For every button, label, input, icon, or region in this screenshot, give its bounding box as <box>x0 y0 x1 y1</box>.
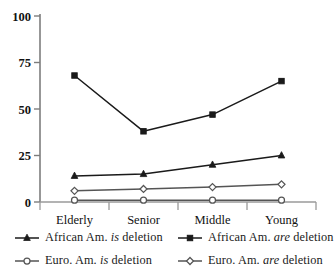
filled-triangle-icon <box>14 231 40 245</box>
data-point <box>209 184 216 191</box>
chart-legend: African Am. is deletion African Am. are … <box>0 226 330 277</box>
data-point <box>279 197 285 203</box>
series-0 <box>71 152 285 179</box>
series-line <box>75 184 282 191</box>
legend-label: Euro. Am. is deletion <box>45 253 152 268</box>
series-1 <box>72 73 284 134</box>
y-tick-label: 25 <box>19 149 32 163</box>
legend-label: African Am. is deletion <box>45 230 163 245</box>
data-point <box>279 78 284 83</box>
data-point <box>140 185 147 192</box>
legend-row-2: Euro. Am. is deletion Euro. Am. are dele… <box>0 249 330 272</box>
data-point <box>71 187 78 194</box>
data-point <box>278 152 285 158</box>
legend-row-1: African Am. is deletion African Am. are … <box>0 226 330 249</box>
legend-item-african-am-are[interactable]: African Am. are deletion <box>163 226 330 249</box>
x-tick-marks <box>40 202 316 210</box>
legend-item-african-am-is[interactable]: African Am. is deletion <box>0 226 163 249</box>
y-tick-label: 50 <box>19 103 32 117</box>
data-point <box>141 129 146 134</box>
open-circle-icon <box>14 254 40 268</box>
data-point <box>72 73 77 78</box>
open-diamond-icon <box>177 254 203 268</box>
y-tick-marks <box>34 16 40 202</box>
x-tick-label: Elderly <box>56 213 94 227</box>
x-tick-label: Young <box>265 213 299 227</box>
legend-label: African Am. are deletion <box>208 230 334 245</box>
legend-item-euro-am-are[interactable]: Euro. Am. are deletion <box>163 249 330 272</box>
x-tick-labels: ElderlySeniorMiddleYoung <box>56 213 299 227</box>
y-tick-label: 100 <box>12 10 31 24</box>
legend-item-euro-am-is[interactable]: Euro. Am. is deletion <box>0 249 163 272</box>
data-point <box>278 181 285 188</box>
plot-area: 0255075100 ElderlySeniorMiddleYoung <box>0 0 330 228</box>
series-3 <box>71 181 285 195</box>
x-tick-label: Senior <box>127 213 160 227</box>
series-line <box>75 156 282 176</box>
data-point <box>141 197 147 203</box>
y-tick-label: 0 <box>25 196 31 210</box>
series-line <box>75 76 282 132</box>
line-chart-svg: 0255075100 ElderlySeniorMiddleYoung <box>0 0 330 228</box>
legend-label: Euro. Am. are deletion <box>208 253 323 268</box>
x-tick-label: Middle <box>194 213 231 227</box>
y-tick-labels: 0255075100 <box>12 10 31 210</box>
data-point <box>210 112 215 117</box>
filled-square-icon <box>177 231 203 245</box>
data-point <box>210 197 216 203</box>
y-tick-label: 75 <box>19 56 32 70</box>
data-series-group <box>71 73 285 203</box>
data-point <box>72 197 78 203</box>
